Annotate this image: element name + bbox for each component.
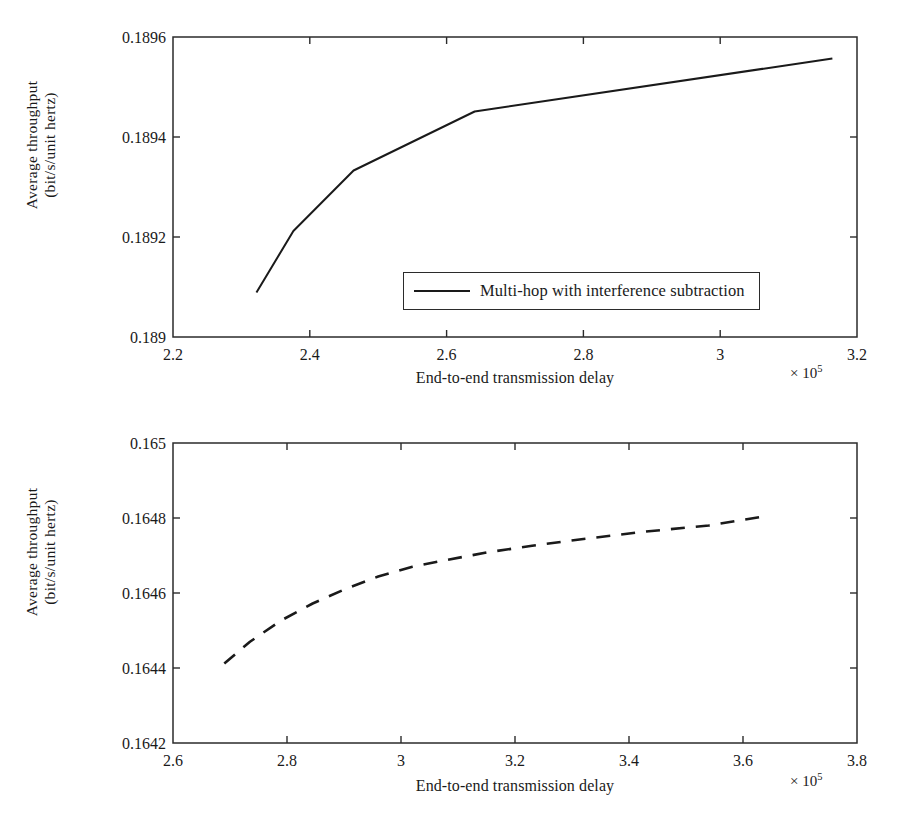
y-axis-tick-label: 0.1896: [122, 29, 166, 46]
y-axis-tick-label: 0.1892: [122, 229, 166, 246]
y-axis-tick-label: 0.1642: [122, 735, 166, 752]
x-axis-tick-label: 2.8: [277, 752, 297, 769]
x-axis-label-top: End-to-end transmission delay: [315, 369, 715, 387]
x-axis-tick-label: 3: [716, 346, 724, 363]
x-axis-tick-label: 2.4: [300, 346, 320, 363]
y-axis-tick-label: 0.1648: [122, 510, 166, 527]
y-axis-tick-label: 0.189: [130, 329, 166, 346]
plot-area-bottom: 2.62.833.23.43.63.80.16420.16440.16460.1…: [0, 414, 919, 827]
x-axis-tick-label: 3.8: [847, 752, 867, 769]
x-axis-multiplier-mantissa: × 10: [790, 773, 817, 789]
x-axis-tick-label: 3.2: [505, 752, 525, 769]
plot-frame: [173, 443, 857, 743]
y-axis-label-line1: Average throughput: [23, 30, 41, 260]
chart-panel-bottom: 2.62.833.23.43.63.80.16420.16440.16460.1…: [0, 414, 919, 827]
x-axis-tick-label: 3: [397, 752, 405, 769]
x-axis-tick-label: 3.6: [733, 752, 753, 769]
x-axis-multiplier-exponent: 5: [817, 771, 822, 782]
y-axis-tick-label: 0.1894: [122, 129, 166, 146]
y-axis-tick-label: 0.165: [130, 435, 166, 452]
y-axis-label-line2: (bit/s/unit hertz): [41, 30, 59, 260]
x-axis-multiplier-exponent: 5: [817, 363, 822, 374]
legend-entry-label: Multi-hop with interference subtraction: [480, 281, 745, 301]
x-axis-multiplier-bottom: × 105: [790, 771, 822, 790]
y-axis-tick-label: 0.1646: [122, 585, 166, 602]
data-series-line: [256, 59, 832, 293]
y-axis-label-line1: Average throughput: [23, 437, 41, 667]
chart-panel-top: 2.22.42.62.833.20.1890.18920.18940.1896 …: [0, 0, 919, 413]
x-axis-tick-label: 3.2: [847, 346, 867, 363]
y-axis-label-bottom: Average throughput (bit/s/unit hertz): [23, 437, 63, 667]
x-axis-tick-label: 3.4: [619, 752, 639, 769]
x-axis-tick-label: 2.6: [437, 346, 457, 363]
x-axis-multiplier-mantissa: × 10: [790, 365, 817, 381]
x-axis-multiplier-top: × 105: [790, 363, 822, 382]
x-axis-tick-label: 2.8: [573, 346, 593, 363]
data-series-line: [224, 516, 766, 663]
legend-top: Multi-hop with interference subtraction: [403, 272, 760, 310]
x-axis-tick-label: 2.6: [163, 752, 183, 769]
x-axis-label-bottom: End-to-end transmission delay: [315, 777, 715, 795]
legend-line-sample-solid-icon: [414, 290, 470, 292]
x-axis-tick-label: 2.2: [163, 346, 183, 363]
y-axis-tick-label: 0.1644: [122, 660, 166, 677]
plot-area-top: 2.22.42.62.833.20.1890.18920.18940.1896: [0, 0, 919, 413]
y-axis-label-line2: (bit/s/unit hertz): [41, 437, 59, 667]
y-axis-label-top: Average throughput (bit/s/unit hertz): [23, 30, 63, 260]
